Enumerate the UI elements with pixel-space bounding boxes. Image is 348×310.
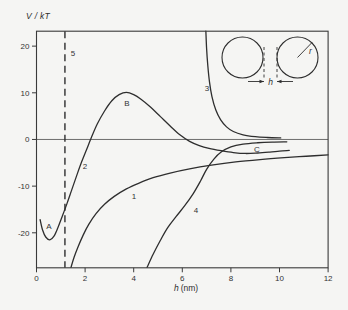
- curve-label-4: 4: [194, 206, 199, 215]
- potential-energy-chart: 02468101220100-10-2053B214AChr: [0, 0, 348, 310]
- curve-label-2: 2: [83, 162, 88, 171]
- dimension-arrowhead-icon: [277, 80, 282, 84]
- x-tick-label: 8: [229, 274, 234, 283]
- x-tick-label: 0: [34, 274, 39, 283]
- x-axis-unit: (nm): [181, 283, 198, 293]
- y-tick-label: 20: [21, 42, 30, 51]
- x-tick-label: 12: [324, 274, 333, 283]
- y-tick-label: 0: [25, 135, 30, 144]
- inset-radius-label: r: [309, 46, 313, 56]
- y-tick-label: -20: [18, 229, 30, 238]
- inset-gap-label: h: [268, 77, 273, 87]
- x-tick-label: 4: [131, 274, 136, 283]
- curve-2: [40, 92, 289, 239]
- curve-1: [71, 155, 328, 267]
- curve-label-3: 3: [205, 84, 210, 93]
- curve-label-A: A: [46, 222, 52, 231]
- inset-spheres-diagram: hr: [222, 37, 318, 87]
- curve-4: [147, 142, 287, 268]
- curve-label-B: B: [124, 99, 129, 108]
- x-axis-title: h(nm): [150, 283, 222, 293]
- curve-label-C: C: [254, 145, 260, 154]
- curve-label-1: 1: [132, 192, 137, 201]
- x-tick-label: 6: [180, 274, 185, 283]
- y-tick-label: -10: [18, 182, 30, 191]
- sphere-1: [222, 37, 263, 78]
- figure-canvas: V / kT 02468101220100-10-2053B214AChr h(…: [0, 0, 348, 310]
- x-tick-label: 2: [83, 274, 88, 283]
- plot-border: [37, 31, 329, 268]
- x-tick-label: 10: [275, 274, 284, 283]
- curve-label-5: 5: [71, 49, 76, 58]
- dimension-arrowhead-icon: [260, 80, 265, 84]
- y-tick-label: 10: [21, 89, 30, 98]
- x-axis-variable: h: [174, 283, 179, 293]
